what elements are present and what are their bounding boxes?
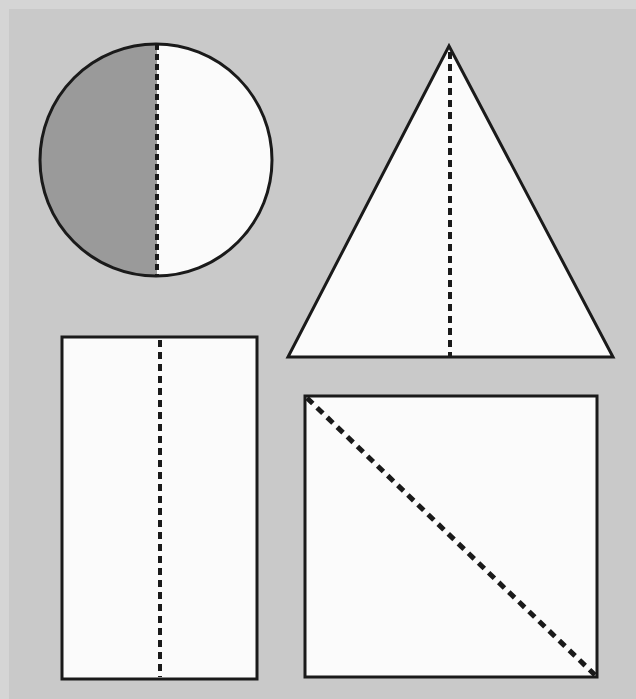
shape-rectangle (62, 337, 257, 679)
shape-square (305, 396, 597, 677)
shape-circle (40, 44, 272, 277)
worksheet-page (0, 0, 636, 699)
shapes-canvas (0, 0, 636, 699)
shape-triangle (288, 46, 613, 357)
